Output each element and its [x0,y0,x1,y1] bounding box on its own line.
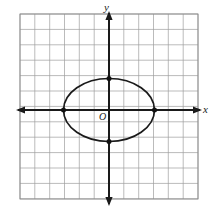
x-axis-label: x [203,104,208,115]
y-axis [105,11,112,206]
y-axis-label: y [104,2,109,13]
x-axis-arrow-right [193,106,202,113]
vertex-point-top [107,76,112,81]
coordinate-plane-figure: y x O [0,0,218,216]
vertex-point-left [61,108,66,113]
origin-label: O [99,112,106,122]
vertex-point-bottom [107,139,112,144]
y-axis-arrow-down [105,197,112,206]
vertex-point-right [152,108,157,113]
x-axis-arrow-left [16,106,25,113]
graph-canvas [0,0,218,216]
